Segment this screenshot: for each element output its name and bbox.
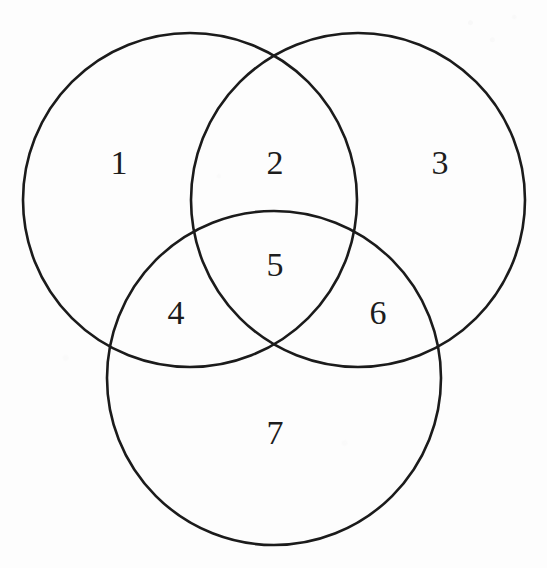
region-label-1: 1 xyxy=(111,146,128,180)
region-label-2: 2 xyxy=(267,146,284,180)
region-label-4: 4 xyxy=(168,296,185,330)
region-label-6: 6 xyxy=(370,296,387,330)
region-label-3: 3 xyxy=(432,146,449,180)
region-label-7: 7 xyxy=(267,416,284,450)
region-label-5: 5 xyxy=(267,248,284,282)
venn-circles-canvas xyxy=(0,0,547,568)
venn-diagram-figure: 1 2 3 4 5 6 7 xyxy=(0,0,547,568)
